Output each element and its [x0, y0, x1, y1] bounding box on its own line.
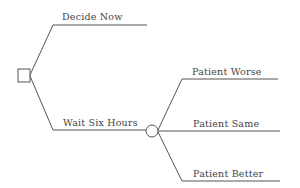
label-patient-worse: Patient Worse — [192, 66, 262, 77]
decision-node-square — [18, 69, 30, 82]
label-decide-now: Decide Now — [62, 11, 122, 22]
chance-node-circle — [146, 125, 158, 137]
label-patient-same: Patient Same — [193, 118, 259, 129]
decision-tree-lines — [0, 0, 300, 188]
label-wait-six-hours: Wait Six Hours — [63, 117, 138, 128]
label-patient-better: Patient Better — [193, 168, 263, 179]
branch-decide-now — [30, 25, 147, 75]
